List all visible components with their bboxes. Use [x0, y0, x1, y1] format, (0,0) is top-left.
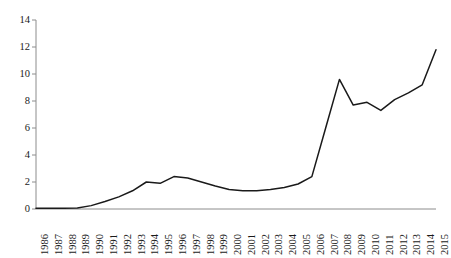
x-axis-tick-label: 1986: [40, 234, 51, 255]
x-axis-tick-label: 1997: [192, 234, 203, 255]
x-axis-tick-label: 1989: [81, 234, 92, 255]
x-axis-tick-label: 2001: [247, 234, 258, 255]
x-axis-tick-label: 2006: [316, 234, 327, 255]
x-axis-tick-label: 2012: [399, 234, 410, 255]
x-axis-tick-label: 1996: [178, 234, 189, 255]
x-axis-tick-label: 2003: [274, 234, 285, 255]
data-series-line: [36, 50, 436, 209]
x-axis-tick-label: 1993: [137, 234, 148, 255]
x-axis-tick-label: 2007: [330, 234, 341, 255]
x-axis-tick-label: 2010: [371, 234, 382, 255]
x-axis-tick-label: 1991: [109, 234, 120, 255]
x-axis-tick-label: 2000: [233, 234, 244, 255]
x-axis-tick-label: 2014: [426, 234, 437, 255]
x-axis-tick-label: 2015: [440, 234, 451, 255]
x-axis-tick-label: 2002: [261, 234, 272, 255]
x-axis-tick-label: 1999: [219, 234, 230, 255]
x-axis-tick-label: 2004: [288, 234, 299, 255]
x-axis-tick-label: 1990: [95, 234, 106, 255]
x-axis-tick-label: 1992: [123, 234, 134, 255]
x-axis-tick-label: 2013: [412, 234, 423, 255]
x-axis-tick-label: 2009: [357, 234, 368, 255]
x-axis-tick-label: 1988: [68, 234, 79, 255]
x-axis-tick-label: 1987: [54, 234, 65, 255]
x-axis-tick-label: 1998: [206, 234, 217, 255]
x-axis-tick-label: 1995: [164, 234, 175, 255]
x-axis-tick-label: 2005: [302, 234, 313, 255]
x-axis-tick-label: 1994: [150, 234, 161, 255]
x-axis-tick-label: 2011: [385, 234, 396, 255]
y-axis-tick-marks: [32, 20, 36, 209]
x-axis-tick-label: 2008: [343, 234, 354, 255]
